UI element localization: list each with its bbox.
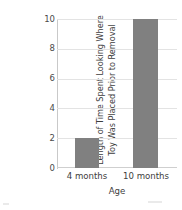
y-tick-label-10: 10 bbox=[41, 15, 55, 24]
x-axis-title: Age bbox=[57, 186, 177, 197]
gridline-4 bbox=[57, 108, 177, 109]
scan-artifact-left bbox=[3, 203, 9, 205]
y-tick-label-2: 2 bbox=[41, 134, 55, 143]
gridline-6 bbox=[57, 79, 177, 80]
plot-area bbox=[57, 19, 177, 168]
gridline-8 bbox=[57, 49, 177, 50]
y-tick-label-4: 4 bbox=[41, 104, 55, 113]
x-tick-label-4-months: 4 months bbox=[57, 170, 117, 182]
gridline-10 bbox=[57, 19, 177, 20]
x-axis-tick-labels: 4 months 10 months bbox=[57, 170, 177, 184]
y-tick-label-8: 8 bbox=[41, 44, 55, 53]
y-tick-label-0: 0 bbox=[41, 164, 55, 173]
bar-10-months bbox=[133, 19, 158, 168]
bar-4-months bbox=[75, 138, 99, 168]
y-axis-title: Length of Time Spent Looking Where Toy W… bbox=[0, 0, 36, 180]
scan-artifact-right bbox=[148, 201, 162, 203]
y-axis-tick-labels: 10 8 6 4 2 0 bbox=[40, 0, 55, 210]
bar-chart-figure: Length of Time Spent Looking Where Toy W… bbox=[0, 0, 182, 210]
y-tick-label-6: 6 bbox=[41, 74, 55, 83]
x-tick-label-10-months: 10 months bbox=[115, 170, 177, 182]
